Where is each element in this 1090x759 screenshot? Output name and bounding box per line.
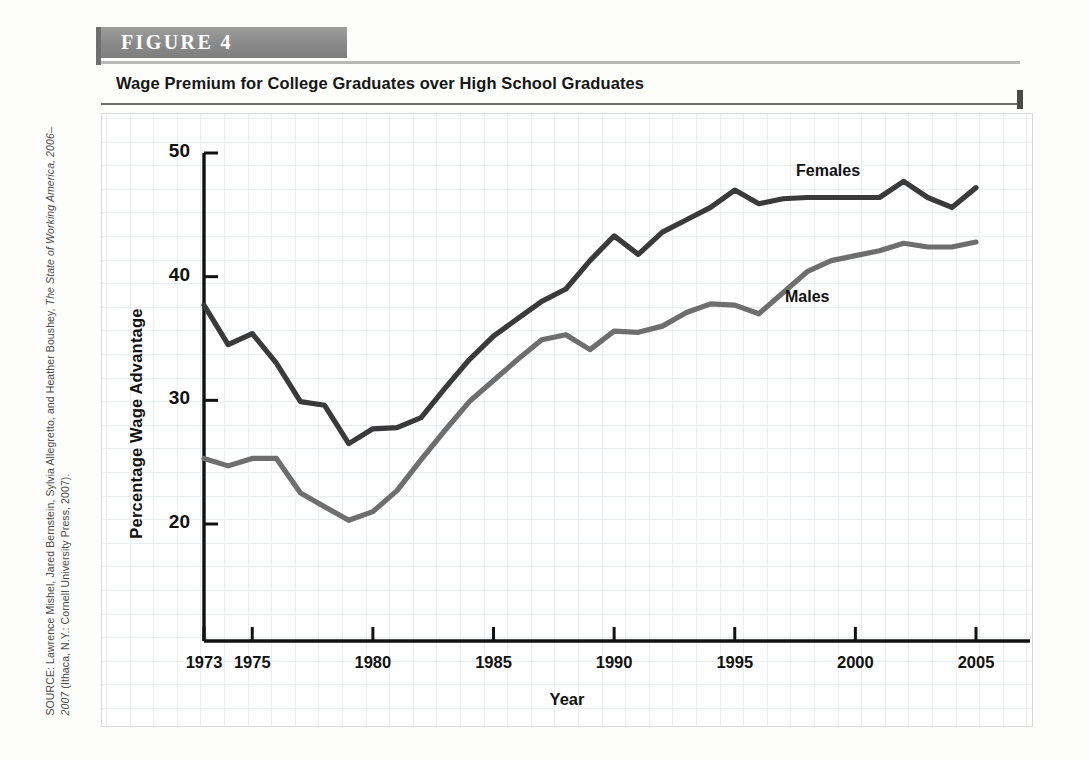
series-label-females: Females xyxy=(796,162,860,180)
figure-title: Wage Premium for College Graduates over … xyxy=(116,74,644,93)
chart-container: 50 40 30 20 1973 1975 1980 1985 1990 199… xyxy=(101,113,1033,727)
figure-page: SOURCE: Lawrence Mishel, Jared Bernstein… xyxy=(0,0,1090,759)
header-endcap-mark xyxy=(1017,90,1023,109)
x-axis-title: Year xyxy=(102,690,1032,709)
y-tick-label-30: 30 xyxy=(150,387,190,409)
figure-header: FIGURE 4 Wage Premium for College Gradua… xyxy=(101,27,1021,58)
source-prefix: SOURCE: Lawrence Mishel, Jared Bernstein… xyxy=(44,305,56,715)
x-tick-label-1990: 1990 xyxy=(579,653,649,672)
x-tick-label-2000: 2000 xyxy=(820,653,890,672)
chart-series xyxy=(204,181,976,520)
header-rule-bottom xyxy=(101,103,1020,105)
y-tick-label-50: 50 xyxy=(150,140,190,162)
source-citation: SOURCE: Lawrence Mishel, Jared Bernstein… xyxy=(43,106,72,716)
x-tick-label-1975: 1975 xyxy=(217,653,287,672)
x-tick-label-1985: 1985 xyxy=(459,653,529,672)
x-tick-label-1980: 1980 xyxy=(338,653,408,672)
y-axis-title: Percentage Wage Advantage xyxy=(127,294,146,554)
x-tick-label-1995: 1995 xyxy=(700,653,770,672)
source-suffix: (Ithaca, N.Y.: Cornell University Press,… xyxy=(58,474,70,692)
figure-number-label: FIGURE 4 xyxy=(121,31,233,54)
header-rule-top xyxy=(101,61,1020,64)
y-tick-label-40: 40 xyxy=(150,264,190,286)
figure-number-banner: FIGURE 4 xyxy=(101,27,347,58)
x-tick-label-2005: 2005 xyxy=(941,653,1011,672)
chart-axes xyxy=(204,153,1030,641)
y-tick-label-20: 20 xyxy=(150,511,190,533)
series-label-males: Males xyxy=(785,288,829,306)
line-chart-plot xyxy=(102,114,1032,726)
